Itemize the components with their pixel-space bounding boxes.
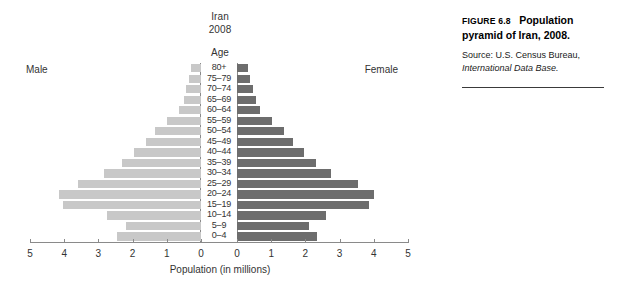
plot-area: 80+75–7970–7465–6960–6455–5950–5445–4940… [30, 63, 408, 242]
x-axis-tick [271, 239, 272, 243]
age-group-label: 60–64 [207, 104, 231, 115]
female-bar [237, 138, 293, 146]
age-group-label: 0–4 [212, 230, 226, 241]
male-bar [134, 148, 201, 156]
age-group-label: 65–69 [207, 94, 231, 105]
male-bar [155, 127, 201, 135]
age-group-label: 40–44 [207, 146, 231, 157]
caption-divider [462, 87, 604, 88]
female-bar [237, 106, 260, 114]
chart-title-country: Iran [0, 10, 440, 23]
x-axis-tick [30, 239, 31, 243]
population-pyramid-figure: Iran 2008 Age Male Female 80+75–7970–746… [0, 0, 440, 287]
female-bar [237, 190, 374, 198]
male-bar [104, 169, 201, 177]
male-bar [59, 190, 201, 198]
age-group-label: 5–9 [212, 220, 226, 231]
age-group-label: 45–49 [207, 136, 231, 147]
age-group-label: 80+ [212, 62, 227, 73]
x-axis-tick-label: 3 [96, 248, 102, 259]
caption-source-prefix: Source: U.S. Census Bureau, [462, 50, 580, 60]
female-bar [237, 222, 309, 230]
x-axis-tick-label: 3 [337, 248, 343, 259]
female-bar [237, 180, 358, 188]
x-axis-tick-label: 1 [268, 248, 274, 259]
male-bar [78, 180, 201, 188]
bar-rows: 80+75–7970–7465–6960–6455–5950–5445–4940… [30, 63, 408, 242]
female-bar [237, 85, 253, 93]
caption-figure-number: FIGURE 6.8 [462, 16, 511, 26]
x-axis-tick-label: 0 [198, 248, 204, 259]
age-group-label: 75–79 [207, 73, 231, 84]
x-axis-tick [374, 239, 375, 243]
caption-source-publication: International Data Base. [462, 63, 559, 73]
male-bar [186, 85, 201, 93]
female-bar [237, 159, 316, 167]
figure-caption: FIGURE 6.8 Population pyramid of Iran, 2… [462, 14, 604, 88]
caption-source: Source: U.S. Census Bureau, Internationa… [462, 49, 604, 74]
figure-page: Iran 2008 Age Male Female 80+75–7970–746… [0, 0, 618, 287]
female-bar [237, 64, 248, 72]
age-group-label: 15–19 [207, 199, 231, 210]
age-group-label: 70–74 [207, 83, 231, 94]
female-bar [237, 211, 326, 219]
x-axis-tick-label: 2 [130, 248, 136, 259]
age-group-label: 55–59 [207, 115, 231, 126]
age-group-label: 25–29 [207, 178, 231, 189]
male-bar [117, 232, 201, 240]
caption-heading: FIGURE 6.8 Population pyramid of Iran, 2… [462, 14, 604, 42]
x-axis-tick-label: 5 [27, 248, 33, 259]
x-axis-tick [340, 239, 341, 243]
x-axis-tick [305, 239, 306, 243]
male-bar [146, 138, 201, 146]
x-axis-tick-label: 2 [303, 248, 309, 259]
x-axis-tick [237, 239, 238, 243]
x-axis-tick-label: 4 [61, 248, 67, 259]
female-bar [237, 201, 369, 209]
x-axis-tick-label: 4 [371, 248, 377, 259]
female-bar [237, 148, 304, 156]
x-axis-tick [133, 239, 134, 243]
x-axis-tick [167, 239, 168, 243]
x-axis-tick [98, 239, 99, 243]
x-axis-tick [64, 239, 65, 243]
male-bar [191, 64, 201, 72]
x-axis-tick [201, 239, 202, 243]
age-group-label: 50–54 [207, 125, 231, 136]
female-bar [237, 127, 284, 135]
female-bar [237, 96, 256, 104]
female-bar [237, 169, 331, 177]
chart-title: Iran 2008 [0, 10, 440, 36]
male-bar [189, 75, 201, 83]
pyramid-row: 0–4 [30, 231, 408, 242]
age-group-label: 30–34 [207, 167, 231, 178]
age-group-label: 10–14 [207, 209, 231, 220]
age-group-label: 35–39 [207, 157, 231, 168]
female-bar [237, 117, 272, 125]
x-axis-title: Population (in millions) [0, 264, 440, 275]
male-bar [167, 117, 201, 125]
x-axis-tick-label: 0 [234, 248, 240, 259]
age-group-label: 20–24 [207, 188, 231, 199]
age-axis-label: Age [0, 47, 440, 58]
x-axis-line: 543210012345 [30, 242, 408, 243]
male-bar [107, 211, 201, 219]
male-bar [179, 106, 201, 114]
female-bar [237, 75, 250, 83]
male-bar [126, 222, 201, 230]
x-axis-tick-label: 1 [164, 248, 170, 259]
male-bar [184, 96, 201, 104]
male-bar [122, 159, 201, 167]
chart-title-year: 2008 [0, 23, 440, 36]
male-bar [63, 201, 202, 209]
x-axis-tick [408, 239, 409, 243]
x-axis-tick-label: 5 [405, 248, 411, 259]
